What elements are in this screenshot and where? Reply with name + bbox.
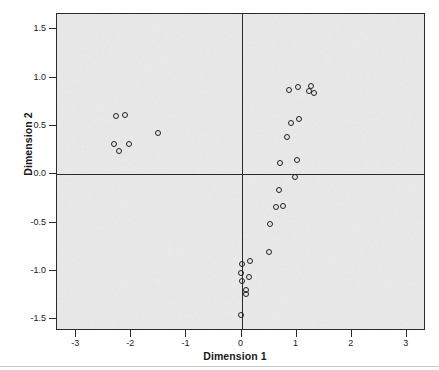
plot-panel — [56, 13, 425, 330]
x-tick-label: 0 — [221, 338, 261, 348]
x-tick-mark — [241, 330, 242, 337]
y-tick-mark — [49, 222, 56, 223]
data-point — [292, 174, 298, 180]
data-point — [295, 84, 301, 90]
x-tick-mark — [296, 330, 297, 337]
data-point — [113, 113, 119, 119]
scatter-plot-figure: Dimension 2 Dimension 1 1.51.00.50.0-0.5… — [0, 0, 439, 370]
y-axis-title: Dimension 2 — [22, 74, 34, 214]
footer-divider — [0, 366, 439, 367]
x-tick-label: -3 — [55, 338, 95, 348]
y-tick-label: -0.5 — [12, 217, 46, 227]
data-point — [284, 134, 290, 140]
data-point — [277, 160, 283, 166]
y-tick-label: 0.0 — [12, 168, 46, 178]
x-tick-label: 3 — [386, 338, 426, 348]
y-tick-mark — [49, 28, 56, 29]
data-point — [288, 120, 294, 126]
data-point — [122, 112, 128, 118]
y-tick-label: 1.0 — [12, 72, 46, 82]
data-point — [267, 221, 273, 227]
data-point — [111, 141, 117, 147]
data-point — [296, 116, 302, 122]
data-point — [239, 278, 245, 284]
x-tick-mark — [406, 330, 407, 337]
data-point — [126, 141, 132, 147]
y-tick-label: 1.5 — [12, 23, 46, 33]
data-point — [286, 87, 292, 93]
x-tick-mark — [130, 330, 131, 337]
horizontal-reference-line — [57, 174, 424, 175]
data-point — [238, 312, 244, 318]
data-point — [311, 90, 317, 96]
x-tick-label: -1 — [165, 338, 205, 348]
data-point — [273, 204, 279, 210]
data-point — [155, 130, 161, 136]
y-tick-label: -1.0 — [12, 265, 46, 275]
data-point — [280, 203, 286, 209]
x-tick-mark — [351, 330, 352, 337]
data-point — [116, 148, 122, 154]
y-tick-mark — [49, 270, 56, 271]
y-tick-mark — [49, 173, 56, 174]
y-tick-mark — [49, 77, 56, 78]
data-point — [239, 261, 245, 267]
x-tick-mark — [75, 330, 76, 337]
x-tick-label: 1 — [276, 338, 316, 348]
data-point — [266, 249, 272, 255]
x-axis-title: Dimension 1 — [55, 350, 415, 362]
data-point — [243, 291, 249, 297]
y-tick-label: 0.5 — [12, 120, 46, 130]
y-tick-mark — [49, 125, 56, 126]
data-point — [276, 187, 282, 193]
data-point — [247, 258, 253, 264]
data-point — [238, 270, 244, 276]
y-tick-mark — [49, 318, 56, 319]
data-point — [246, 274, 252, 280]
y-tick-label: -1.5 — [12, 313, 46, 323]
x-tick-label: -2 — [110, 338, 150, 348]
x-tick-mark — [185, 330, 186, 337]
x-tick-label: 2 — [331, 338, 371, 348]
data-point — [294, 157, 300, 163]
